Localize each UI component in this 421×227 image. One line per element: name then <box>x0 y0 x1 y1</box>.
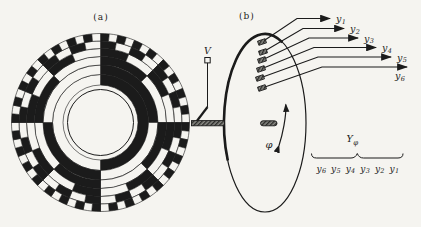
disk-sector <box>83 34 92 43</box>
disk-sector <box>12 130 21 139</box>
disk-sector <box>180 105 189 114</box>
disk-sector <box>92 204 101 212</box>
disk-sector <box>101 204 110 212</box>
disk-sector <box>12 114 20 123</box>
supply-brush-bar <box>192 121 225 126</box>
disk-sector <box>108 202 117 211</box>
shaft-icon <box>261 121 278 126</box>
voltage-source-label: V <box>204 45 212 56</box>
disk-sector <box>75 35 85 44</box>
disk-sector <box>101 34 110 42</box>
disk-sector <box>182 114 190 123</box>
panel-b-label: (b) <box>239 11 255 21</box>
disk-sector <box>13 138 22 148</box>
disk-sector <box>12 123 20 132</box>
disk-sector <box>178 97 187 107</box>
figure-canvas: (a) (b) V y1y2y3y4y5y6 φ Yφ y6y5y4y3y2y1 <box>0 0 421 227</box>
voltage-terminal-icon <box>205 58 210 63</box>
disk-sector <box>182 123 190 132</box>
disk-center-hole <box>68 90 134 156</box>
disk-sector <box>116 200 126 209</box>
disk-sector <box>92 34 101 42</box>
rotation-angle-label: φ <box>265 139 272 150</box>
panel-a-label: (a) <box>93 12 108 22</box>
